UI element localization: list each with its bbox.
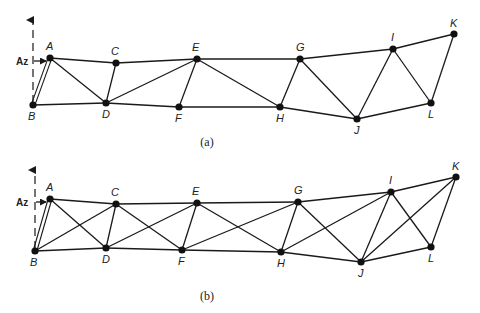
member-il (391, 192, 431, 247)
joint-label-c: C (111, 186, 119, 198)
member-ik (391, 177, 456, 192)
member-il (393, 49, 431, 103)
joint-a (46, 54, 53, 61)
member-eh (197, 59, 280, 107)
joint-label-i: I (391, 31, 394, 43)
joint-label-a: A (45, 40, 53, 52)
truss-figure-b: AzABCDEFGHIJKL(b) (16, 160, 460, 303)
member-jl (361, 247, 431, 262)
truss-figure-a: AzABCDEFGHIJKL(a) (16, 17, 458, 149)
joint-e (193, 55, 200, 62)
member-jl (357, 103, 431, 119)
member-lk (431, 34, 454, 103)
joint-k (450, 30, 457, 37)
member-df (106, 103, 179, 107)
joint-label-d: D (102, 108, 110, 120)
member-ac (50, 199, 116, 204)
double-member-ab (31, 57, 48, 104)
joint-l (427, 99, 434, 106)
joint-label-h: H (277, 257, 285, 269)
joint-label-i: I (389, 174, 392, 186)
joint-label-d: D (102, 253, 110, 265)
member-cd (106, 63, 116, 103)
member-fg (182, 202, 298, 250)
member-ad (50, 58, 106, 103)
double-member-ab (37, 199, 52, 251)
member-df (106, 248, 182, 250)
joint-d (102, 244, 109, 251)
joint-c (112, 200, 119, 207)
member-ef (182, 203, 197, 250)
joint-label-a: A (45, 181, 53, 193)
joint-l (427, 243, 434, 250)
joint-b (29, 101, 36, 108)
joint-g (294, 198, 301, 205)
joint-i (387, 188, 394, 195)
joint-f (178, 246, 185, 253)
member-gh (280, 59, 300, 107)
member-ce (116, 203, 197, 204)
joint-a (46, 195, 53, 202)
member-hj (281, 252, 361, 262)
joint-f (175, 103, 182, 110)
member-ij (357, 49, 393, 119)
joint-d (102, 99, 109, 106)
joint-j (357, 258, 364, 265)
member-cd (106, 204, 116, 248)
member-gi (300, 49, 393, 59)
member-bd (33, 103, 106, 105)
double-member-ab (35, 59, 52, 106)
reaction-label: Az (16, 56, 28, 67)
joint-label-l: L (428, 108, 434, 120)
joint-label-k: K (452, 160, 460, 172)
member-hj (280, 107, 357, 119)
member-ij (361, 192, 391, 262)
member-gi (298, 192, 391, 202)
joint-c (112, 59, 119, 66)
joint-label-l: L (428, 252, 434, 264)
joint-label-c: C (111, 45, 119, 57)
member-ac (50, 58, 116, 63)
joint-label-g: G (296, 41, 305, 53)
joint-e (193, 199, 200, 206)
joint-label-e: E (192, 41, 200, 53)
joint-label-b: B (30, 256, 37, 268)
joint-label-b: B (28, 110, 35, 122)
joint-label-j: J (353, 124, 360, 136)
figure-caption: (b) (200, 289, 214, 303)
member-eh (197, 203, 281, 252)
member-de (106, 203, 197, 248)
member-eg (197, 202, 298, 203)
joint-i (389, 45, 396, 52)
member-ce (116, 59, 197, 63)
member-ad (50, 199, 106, 248)
joint-g (296, 55, 303, 62)
joint-label-g: G (294, 184, 303, 196)
truss-diagrams: AzABCDEFGHIJKL(a) AzABCDEFGHIJKL(b) (0, 0, 480, 313)
joint-label-k: K (450, 17, 458, 29)
joint-j (353, 115, 360, 122)
member-gj (298, 202, 361, 262)
member-fh (182, 250, 281, 252)
joint-label-e: E (192, 185, 200, 197)
figure-caption: (a) (200, 135, 213, 149)
reaction-label: Az (16, 197, 28, 208)
member-bd (35, 248, 106, 251)
joint-h (277, 248, 284, 255)
joint-h (276, 103, 283, 110)
joint-label-f: F (178, 255, 186, 267)
joint-label-f: F (175, 112, 183, 124)
member-ik (393, 34, 454, 49)
joint-b (31, 247, 38, 254)
member-gj (300, 59, 357, 119)
joint-label-j: J (357, 267, 364, 279)
member-jk (361, 177, 456, 262)
joint-k (452, 173, 459, 180)
joint-label-h: H (276, 112, 284, 124)
member-bc (35, 204, 116, 251)
